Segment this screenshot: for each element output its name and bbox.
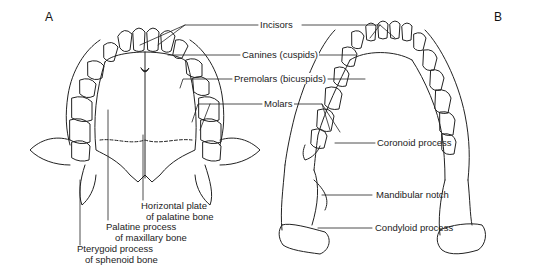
- jaw-illustrations: [0, 0, 557, 274]
- label-canines: Canines (cuspids): [241, 49, 319, 60]
- label-incisors: Incisors: [259, 19, 294, 30]
- maxilla-drawing: [30, 28, 260, 205]
- label-coronoid-process: Coronoid process: [377, 137, 451, 148]
- label-molars: Molars: [263, 98, 294, 109]
- label-palatine-process-line2: of maxillary bone: [115, 232, 187, 243]
- label-horizontal-plate-line1: Horizontal plate: [141, 200, 207, 211]
- leader-lines: [80, 25, 395, 245]
- panel-letter-a: A: [45, 10, 53, 24]
- label-condyloid-process: Condyloid process: [375, 222, 453, 233]
- label-palatine-process-line1: Palatine process: [106, 221, 176, 232]
- panel-letter-b: B: [494, 10, 502, 24]
- label-pterygoid-line2: of sphenoid bone: [85, 254, 158, 265]
- label-premolars: Premolars (bicuspids): [233, 73, 327, 84]
- label-pterygoid-line1: Pterygoid process: [77, 243, 153, 254]
- label-mandibular-notch: Mandibular notch: [376, 189, 449, 200]
